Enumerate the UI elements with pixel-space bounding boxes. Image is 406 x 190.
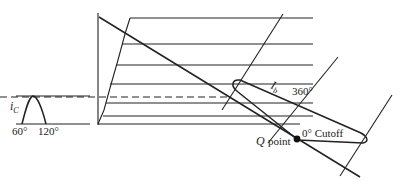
ib-time-axis xyxy=(340,95,392,176)
angle-60-label: 60° xyxy=(12,125,27,137)
output-current-graph xyxy=(16,96,90,124)
angle-360-label: 360° xyxy=(292,85,313,97)
characteristic-curves xyxy=(0,13,313,125)
q-label: Q xyxy=(256,134,265,148)
ic-pulse-curve xyxy=(22,96,46,124)
q-point-marker xyxy=(294,136,301,143)
q-point-label: point xyxy=(268,135,291,147)
ic-label: iC xyxy=(10,99,19,115)
angle-120-label: 120° xyxy=(38,125,59,137)
load-line-diagram: iC 60° 120° Ib 360° 0° Cutoff Q point xyxy=(0,0,406,190)
cutoff-label: 0° Cutoff xyxy=(302,127,344,139)
